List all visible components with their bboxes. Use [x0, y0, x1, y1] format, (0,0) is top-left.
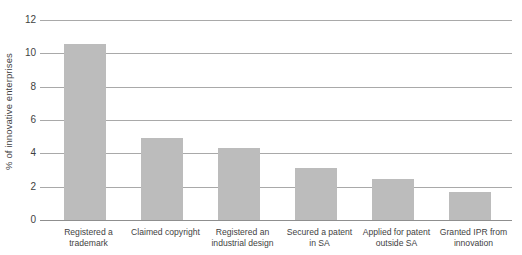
category-label-line1: Registered an [216, 227, 270, 237]
y-axis-tick-mark [40, 187, 50, 188]
category-label-line2: industrial design [204, 238, 281, 249]
bar-chart: % of innovative enterprises 024681012 Re… [0, 0, 522, 255]
category-label-line1: Claimed copyright [131, 227, 200, 237]
bar [64, 44, 106, 220]
x-axis-category-label: Registered anindustrial design [204, 227, 281, 248]
category-label-line1: Secured a patent [287, 227, 352, 237]
y-axis-tick-mark [40, 220, 50, 221]
gridline [50, 20, 512, 21]
y-axis-tick-mark [40, 153, 50, 154]
axis-baseline [50, 220, 512, 221]
category-label-line2: trademark [50, 238, 127, 249]
bar [372, 179, 414, 220]
x-axis-category-label: Registered atrademark [50, 227, 127, 248]
y-axis-tick-mark [40, 87, 50, 88]
plot-area [50, 20, 512, 220]
y-axis-tick-mark [40, 53, 50, 54]
y-axis-tick-label: 4 [14, 148, 36, 158]
gridline [50, 53, 512, 54]
x-axis-category-label: Applied for patentoutside SA [358, 227, 435, 248]
category-label-line2: innovation [435, 238, 512, 249]
category-label-line2: outside SA [358, 238, 435, 249]
gridline [50, 87, 512, 88]
category-label-line1: Registered a [64, 227, 113, 237]
x-axis-category-label: Claimed copyright [127, 227, 204, 238]
y-axis-tick-label: 12 [14, 15, 36, 25]
bar [449, 192, 491, 220]
y-axis-tick-label: 0 [14, 215, 36, 225]
y-axis-tick-mark [40, 120, 50, 121]
category-label-line1: Granted IPR from [440, 227, 507, 237]
gridline [50, 153, 512, 154]
y-axis-title: % of innovative enterprises [0, 0, 16, 222]
x-axis-category-label: Secured a patentin SA [281, 227, 358, 248]
y-axis-tick-mark [40, 20, 50, 21]
bar [218, 148, 260, 220]
gridline [50, 120, 512, 121]
y-axis-title-text: % of innovative enterprises [3, 53, 14, 170]
x-axis-category-label: Granted IPR frominnovation [435, 227, 512, 248]
category-label-line1: Applied for patent [363, 227, 430, 237]
gridline [50, 187, 512, 188]
bar [295, 168, 337, 220]
category-label-line2: in SA [281, 238, 358, 249]
y-axis-tick-label: 8 [14, 82, 36, 92]
bar [141, 138, 183, 220]
y-axis-tick-label: 10 [14, 48, 36, 58]
y-axis-tick-label: 2 [14, 182, 36, 192]
y-axis-tick-label: 6 [14, 115, 36, 125]
